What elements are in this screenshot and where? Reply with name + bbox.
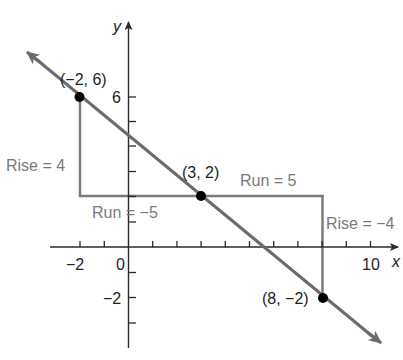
coordinate-plane: y x −2 0 10 6 −2 (−2, 6) (3, 2) (8, −2) …: [0, 0, 403, 360]
x-axis-ticks: [80, 241, 371, 247]
run-right-label: Run = 5: [240, 172, 297, 189]
y-axis: [129, 22, 137, 348]
point-neg2-6: [75, 92, 85, 102]
point-8-neg2: [318, 293, 328, 303]
x-tick-label-10: 10: [362, 256, 380, 273]
point-3-2: [196, 191, 206, 201]
x-axis-label: x: [391, 253, 401, 270]
rise-left-label: Rise = 4: [6, 157, 65, 174]
y-tick-label-6: 6: [112, 89, 121, 106]
x-tick-label-0: 0: [116, 256, 125, 273]
point-label-3-2: (3, 2): [182, 164, 219, 181]
point-label-neg2-6: (−2, 6): [60, 71, 107, 88]
y-axis-label: y: [112, 18, 122, 35]
x-axis: [50, 241, 398, 247]
point-label-8-neg2: (8, −2): [262, 290, 309, 307]
slope-line-arrow-end: [368, 333, 381, 343]
rise-right-label: Rise = −4: [326, 215, 395, 232]
slope-line-arrow-start: [27, 52, 40, 62]
x-tick-label-neg2: −2: [66, 256, 84, 273]
run-left-label: Run = −5: [92, 204, 158, 221]
y-tick-label-neg2: −2: [103, 290, 121, 307]
